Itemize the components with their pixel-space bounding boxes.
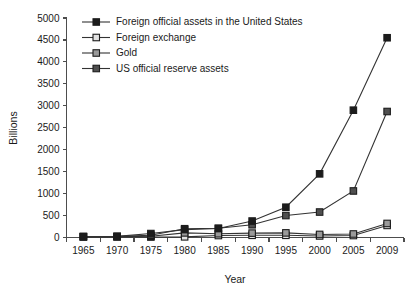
legend-swatch-marker (93, 50, 100, 57)
data-point-marker (384, 108, 391, 115)
chart-figure: 0500100015002000250030003500400045005000… (0, 0, 418, 292)
x-tick-label: 1995 (275, 245, 298, 256)
legend-entry-label: Foreign official assets in the United St… (116, 16, 303, 27)
y-tick-label: 3000 (37, 100, 60, 111)
data-point-marker (384, 35, 391, 42)
data-point-marker (316, 231, 323, 238)
y-tick-label: 1000 (37, 188, 60, 199)
data-point-marker (316, 171, 323, 178)
y-tick-label: 4500 (37, 34, 60, 45)
data-point-marker (350, 107, 357, 114)
legend-swatch-marker (93, 19, 100, 26)
y-axis-title: Billions (7, 111, 19, 144)
x-axis-title: Year (224, 273, 246, 285)
data-point-marker (181, 226, 188, 233)
y-tick-label: 2000 (37, 144, 60, 155)
data-point-marker (384, 220, 391, 227)
x-tick-label: 1990 (241, 245, 264, 256)
data-point-marker (249, 230, 256, 237)
legend-entry-label: Gold (116, 47, 137, 58)
data-point-marker (283, 212, 290, 219)
legend-entry-label: Foreign exchange (116, 32, 196, 43)
data-point-marker (80, 233, 87, 240)
data-point-marker (283, 204, 290, 211)
x-tick-label: 1970 (106, 245, 129, 256)
y-tick-label: 3500 (37, 78, 60, 89)
legend-swatch-marker (93, 65, 100, 72)
y-tick-label: 5000 (37, 13, 60, 24)
y-tick-label: 500 (43, 210, 60, 221)
data-point-marker (114, 233, 121, 240)
y-tick-label: 1500 (37, 166, 60, 177)
y-tick-label: 0 (54, 232, 60, 243)
legend-swatch-marker (93, 34, 100, 41)
x-tick-label: 2000 (309, 245, 332, 256)
line-chart: 0500100015002000250030003500400045005000… (0, 0, 418, 292)
data-point-marker (350, 231, 357, 238)
data-point-marker (148, 230, 155, 237)
data-point-marker (249, 218, 256, 225)
data-point-marker (316, 209, 323, 216)
data-point-marker (215, 225, 222, 232)
x-tick-label: 1985 (207, 245, 230, 256)
x-tick-label: 1965 (72, 245, 95, 256)
legend-entry-label: US official reserve assets (116, 63, 229, 74)
x-tick-label: 1975 (140, 245, 163, 256)
y-tick-label: 4000 (37, 56, 60, 67)
x-tick-label: 1980 (174, 245, 197, 256)
data-point-marker (350, 188, 357, 195)
x-tick-label: 2009 (376, 245, 399, 256)
x-tick-label: 2005 (342, 245, 365, 256)
data-point-marker (283, 230, 290, 237)
y-tick-label: 2500 (37, 122, 60, 133)
